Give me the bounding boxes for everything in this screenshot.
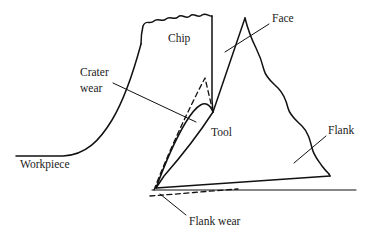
label-flank: Flank: [328, 124, 354, 136]
chip-right-edge: [212, 16, 213, 112]
label-tool: Tool: [211, 126, 232, 138]
label-flank-wear: Flank wear: [189, 215, 241, 227]
label-face: Face: [272, 12, 294, 24]
label-chip: Chip: [168, 32, 191, 45]
crater-wear-profile: [154, 78, 213, 190]
tool-right-profile: [245, 18, 329, 174]
label-crater-wear-line2: wear: [80, 82, 103, 94]
flank-wear-leader-line: [160, 194, 186, 215]
label-crater-wear-line1: Crater: [80, 66, 109, 78]
face-leader-line: [225, 24, 269, 52]
diagram-canvas: Workpiece Chip Crater wear Face Tool Fla…: [0, 0, 371, 242]
workpiece-surface: [16, 44, 141, 156]
crater-wear-leader-line: [113, 83, 196, 122]
label-workpiece: Workpiece: [20, 158, 70, 171]
tool-clearance-edge: [156, 176, 330, 188]
tool-wear-diagram: Workpiece Chip Crater wear Face Tool Fla…: [0, 0, 371, 242]
